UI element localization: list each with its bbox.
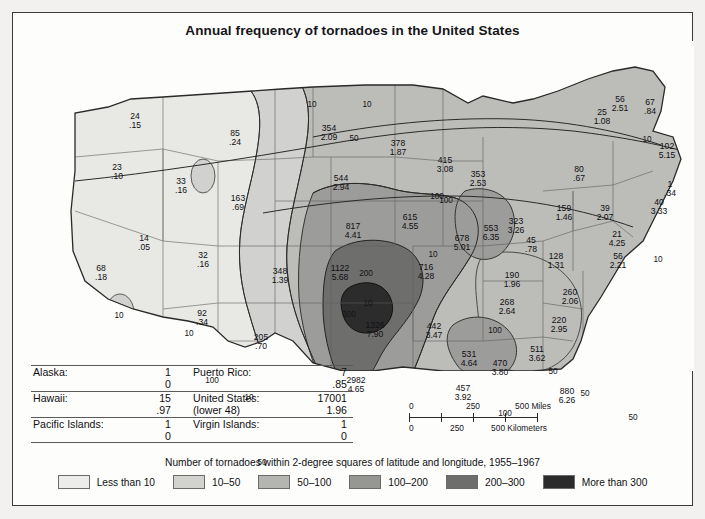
isoline-label-10: 10 [307, 100, 316, 109]
scale-km-500: 500 Kilometers [491, 423, 547, 433]
scale-bar: 0 250 500 Miles 0 250 500 Kilometers [409, 401, 559, 434]
scale-miles-labels: 0 250 500 Miles [409, 401, 559, 412]
legend-label: 100–200 [388, 477, 428, 488]
stats-left-sub [31, 404, 143, 417]
legend-swatch [543, 475, 575, 489]
stats-right-count: 1 [297, 417, 353, 430]
state-rate: 6.26 [559, 396, 576, 405]
stats-left-rate: 0 [143, 378, 177, 391]
stats-rate-row: .97(lower 48)1.96 [31, 404, 353, 417]
legend-caption: Number of tornadoes within 2-degree squa… [13, 457, 692, 468]
scale-km-labels: 0 250 500 Kilometers [409, 423, 559, 434]
stats-rate-row: 0.85 [31, 378, 353, 391]
map-svg [13, 41, 694, 371]
legend-swatch [173, 475, 205, 489]
state-value-louisiana: 4573.92 [455, 384, 472, 403]
isoline-label-10: 10 [642, 135, 651, 144]
legend-swatch [446, 475, 478, 489]
legend-label: 10–50 [212, 477, 240, 488]
stats-right-rate: .85 [297, 378, 353, 391]
stats-right-sub [191, 378, 297, 391]
state-value-florida: 8806.26 [559, 387, 576, 406]
scale-km-0: 0 [409, 423, 414, 433]
isoline-label-200: 200 [359, 269, 373, 278]
isoline-label-50: 50 [548, 367, 557, 376]
isoline-label-100: 100 [430, 192, 444, 201]
map-figure-frame: Annual frequency of tornadoes in the Uni… [12, 12, 693, 506]
isoline-label-50: 50 [349, 134, 358, 143]
legend-label: More than 300 [582, 477, 648, 488]
legend-label: 50–100 [297, 477, 331, 488]
legend-item: More than 300 [543, 475, 648, 489]
tornado-frequency-map: 24.1523.1033.1685.24163.6914.0568.1832.1… [13, 41, 694, 371]
stats-left-rate: 0 [143, 430, 177, 443]
isoline-label-50: 50 [580, 389, 589, 398]
stats-right-count: 17001 [297, 391, 353, 404]
band-gt300 [341, 283, 392, 333]
isoline-label-10: 10 [653, 255, 662, 264]
stats-left-sub [31, 378, 143, 391]
stats-row: Hawaii:15United States:17001 [31, 391, 353, 404]
stats-left-label: Hawaii: [31, 391, 143, 404]
scale-km-250: 250 [450, 423, 464, 433]
stats-left-count: 15 [143, 391, 177, 404]
stats-right-count: 7 [297, 366, 353, 379]
isoline-label-10: 10 [362, 100, 371, 109]
page-title: Annual frequency of tornadoes in the Uni… [13, 23, 692, 38]
stats-left-sub [31, 430, 143, 443]
stats-right-label: Virgin Islands: [191, 417, 297, 430]
state-count: 880 [559, 387, 576, 396]
stats-right-label: United States: [191, 391, 297, 404]
stats-right-rate: 1.96 [297, 404, 353, 417]
isoline-label-100: 100 [488, 326, 502, 335]
legend-label: Less than 10 [97, 477, 155, 488]
stats-left-rate: .97 [143, 404, 177, 417]
stats-right-sub [191, 430, 297, 443]
legend-label: 200–300 [485, 477, 525, 488]
legend-item: 50–100 [258, 475, 331, 489]
stats-right-rate: 0 [297, 430, 353, 443]
stats-left-count: 1 [143, 366, 177, 379]
legend-swatch [349, 475, 381, 489]
stats-right-label: Puerto Rico: [191, 366, 297, 379]
scale-bar-axis [409, 413, 559, 422]
isoline-label-300: 300 [342, 310, 356, 319]
isoline-label-10: 10 [114, 311, 123, 320]
stats-right-sub: (lower 48) [191, 404, 297, 417]
stats-row: Alaska:1Puerto Rico:7 [31, 366, 353, 379]
territory-stats-table: Alaska:1Puerto Rico:70.85Hawaii:15United… [31, 365, 353, 443]
legend-item: 100–200 [349, 475, 428, 489]
legend-item: Less than 10 [58, 475, 155, 489]
isoline-label-50: 50 [628, 413, 637, 422]
legend-item: 200–300 [446, 475, 525, 489]
stats-left-count: 1 [143, 417, 177, 430]
isoline-label-10: 10 [428, 250, 437, 259]
legend: Less than 1010–5050–100100–200200–300Mor… [13, 475, 692, 489]
stats-left-label: Pacific Islands: [31, 417, 143, 430]
isoline-label-10: 10 [184, 329, 193, 338]
scale-miles-250: 250 [466, 401, 480, 411]
legend-swatch [58, 475, 90, 489]
scale-miles-500: 500 Miles [515, 401, 551, 411]
screenshot-root: Annual frequency of tornadoes in the Uni… [0, 0, 705, 519]
stats-row: Pacific Islands:1Virgin Islands:1 [31, 417, 353, 430]
scale-miles-0: 0 [409, 401, 414, 411]
stats-left-label: Alaska: [31, 366, 143, 379]
isoline-label-10: 10 [363, 299, 372, 308]
stats-rate-row: 00 [31, 430, 353, 443]
stats-table: Alaska:1Puerto Rico:70.85Hawaii:15United… [31, 365, 353, 443]
legend-item: 10–50 [173, 475, 240, 489]
legend-swatch [258, 475, 290, 489]
state-count: 457 [455, 384, 472, 393]
